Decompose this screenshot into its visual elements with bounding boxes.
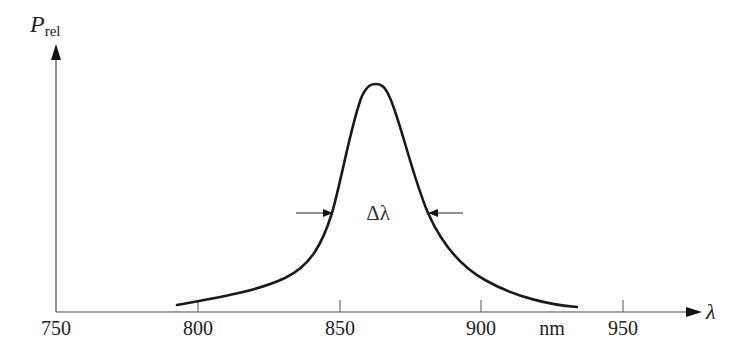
tick-label-800: 800 [183,317,213,339]
tick-label-750: 750 [41,317,71,339]
y-axis-label: Prel [29,11,61,39]
x-axis-label: λ [705,299,716,324]
tick-label-900: 900 [466,317,496,339]
tick-label-850: 850 [325,317,355,339]
x-axis-arrow-icon [686,307,702,317]
fwhm-label: Δλ [366,201,391,225]
spectrum-curve [177,84,577,307]
tick-label-950: 950 [608,317,638,339]
y-axis-arrow-icon [51,44,61,60]
x-unit-label: nm [539,317,565,339]
spectrum-chart: 750 800 850 900 nm 950 λ Prel Δλ [0,0,743,357]
